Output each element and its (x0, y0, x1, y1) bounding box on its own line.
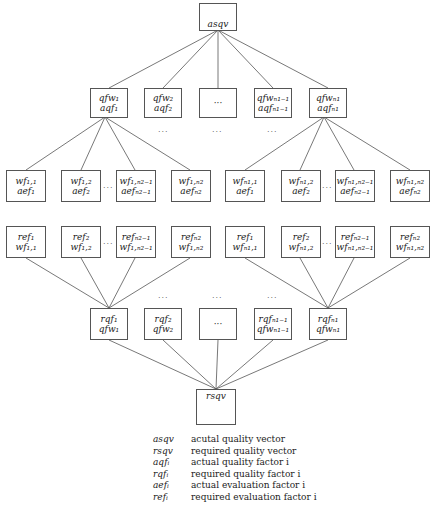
node-line: aef₂ (72, 186, 90, 196)
legend-description: required evaluation factor i (191, 492, 317, 504)
node-line: rqf₁ (100, 314, 117, 324)
node-label: rsqv (206, 391, 226, 401)
node-line: wf₁,ₙ₂ (179, 242, 204, 252)
node-line: wfₙ₁,ₙ₂ (396, 176, 424, 186)
node-line: wfₙ₁,₂ (289, 176, 314, 186)
node-actual-evaluation: wfₙ₁,ₙ₂ aefₙ₂ (390, 170, 430, 202)
node-line: aefₙ₂ (180, 186, 201, 196)
node-line: rqfₙ₁₋₁ (258, 314, 287, 324)
ellipsis: ··· (267, 127, 278, 136)
node-required-factor: rqf₁ qfw₁ (90, 308, 128, 340)
ellipsis: ··· (158, 293, 169, 302)
ellipsis: ··· (158, 127, 169, 136)
legend-item: rqfᵢ required quality factor i (153, 469, 317, 481)
node-actual-factor: qfw₁ aqf₁ (90, 88, 128, 118)
node-required-evaluation: refₙ₂₋₁ wfₙ₁,ₙ₂₋₁ (335, 226, 375, 258)
node-line: refₙ₂₋₁ (122, 232, 151, 242)
ellipsis: ··· (103, 239, 114, 248)
node-line: wf₁,ₙ₂ (179, 176, 204, 186)
node-actual-factor: qfw₂ aqf₂ (144, 88, 182, 118)
node-line: qfw₂ (153, 324, 173, 334)
node-line: wfₙ₁,₁ (233, 242, 258, 252)
node-line: qfw₁ (99, 324, 119, 334)
node-required-evaluation: ref₂ wf₁,₂ (61, 226, 101, 258)
node-line: qfwₙ₁ (316, 324, 340, 334)
node-required-evaluation: ref₁ wfₙ₁,₁ (225, 226, 265, 258)
node-actual-factor: qfwₙ₁₋₁ aqfₙ₁₋₁ (254, 88, 292, 118)
legend-description: required quality vector (191, 446, 296, 458)
node-line: wf₁,₂ (70, 176, 91, 186)
legend-description: actual quality factor i (191, 457, 289, 469)
ellipsis: ··· (267, 293, 278, 302)
node-line: aqf₂ (154, 103, 172, 113)
legend-item: asqv acutal quality vector (153, 434, 317, 446)
legend-item: refᵢ required evaluation factor i (153, 492, 317, 504)
ellipsis: ··· (322, 239, 333, 248)
node-line: qfwₙ₁₋₁ (257, 324, 289, 334)
node-actual-evaluation: wf₁,ₙ₂₋₁ aefₙ₂₋₁ (116, 170, 156, 202)
node-required-factor: rqfₙ₁₋₁ qfwₙ₁₋₁ (254, 308, 292, 340)
node-line: aqf₁ (100, 103, 118, 113)
legend-symbol: refᵢ (153, 492, 191, 504)
node-line: wfₙ₁,ₙ₂₋₁ (337, 242, 374, 252)
node-line: ··· (214, 98, 223, 108)
node-actual-evaluation: wf₁,₁ aef₁ (6, 170, 46, 202)
node-line: aefₙ₂ (399, 186, 420, 196)
node-line: qfwₙ₁₋₁ (257, 93, 289, 103)
node-line: qfwₙ₁ (316, 93, 340, 103)
node-line: wf₁,₁ (15, 176, 36, 186)
ellipsis: ··· (322, 183, 333, 192)
legend-symbol: asqv (153, 434, 191, 446)
legend-description: required quality factor i (191, 469, 300, 481)
node-line: ··· (214, 319, 223, 329)
node-actual-factor: qfwₙ₁ aqfₙ₁ (309, 88, 347, 118)
node-line: qfw₁ (99, 93, 119, 103)
node-line: wf₁,ₙ₂₋₁ (119, 176, 152, 186)
node-line: aef₂ (292, 186, 310, 196)
node-required-evaluation: ref₁ wf₁,₁ (6, 226, 46, 258)
node-actual-evaluation: wfₙ₁,₂ aef₂ (281, 170, 321, 202)
node-required-evaluation: refₙ₂ wfₙ₁,ₙ₂ (390, 226, 430, 258)
node-line: rqf₂ (154, 314, 171, 324)
node-line: aef₁ (236, 186, 254, 196)
node-line: refₙ₂ (400, 232, 420, 242)
node-line: refₙ₂₋₁ (341, 232, 370, 242)
node-line: aqfₙ₁ (317, 103, 339, 113)
node-required-evaluation: refₙ₂ wf₁,ₙ₂ (171, 226, 211, 258)
node-actual-evaluation: wfₙ₁,₁ aef₁ (225, 170, 265, 202)
ellipsis: ··· (212, 293, 223, 302)
node-line: ref₁ (18, 232, 35, 242)
node-line: aefₙ₂₋₁ (121, 186, 151, 196)
node-line: wfₙ₁,₂ (289, 242, 314, 252)
node-line: aefₙ₂₋₁ (340, 186, 370, 196)
node-line: wfₙ₁,ₙ₂₋₁ (337, 176, 374, 186)
node-required-factor: rqfₙ₁ qfwₙ₁ (309, 308, 347, 340)
legend-symbol: rqfᵢ (153, 469, 191, 481)
node-line: wfₙ₁,ₙ₂ (396, 242, 424, 252)
node-line: ref₁ (237, 232, 254, 242)
node-line: rqfₙ₁ (318, 314, 339, 324)
node-label: asqv (208, 19, 229, 29)
node-required-evaluation: refₙ₂₋₁ wf₁,ₙ₂₋₁ (116, 226, 156, 258)
node-line: refₙ₂ (181, 232, 201, 242)
node-required-factor-ellipsis: ··· (199, 308, 237, 340)
legend-symbol: aqfᵢ (153, 457, 191, 469)
node-required-factor: rqf₂ qfw₂ (144, 308, 182, 340)
node-line: aqfₙ₁₋₁ (258, 103, 288, 113)
node-line: wfₙ₁,₁ (233, 176, 258, 186)
node-rsqv: rsqv (196, 389, 236, 425)
node-line: ref₂ (73, 232, 90, 242)
node-line: wf₁,₂ (70, 242, 91, 252)
legend-description: acutal quality vector (191, 434, 285, 446)
node-line: wf₁,ₙ₂₋₁ (119, 242, 152, 252)
node-line: qfw₂ (153, 93, 173, 103)
node-line: ref₂ (293, 232, 310, 242)
ellipsis: ··· (103, 183, 114, 192)
node-actual-evaluation: wf₁,ₙ₂ aefₙ₂ (171, 170, 211, 202)
legend: asqv acutal quality vector rsqv required… (153, 434, 317, 504)
node-actual-factor-ellipsis: ··· (199, 88, 237, 118)
legend-item: aefᵢ actual evaluation factor i (153, 480, 317, 492)
legend-item: aqfᵢ actual quality factor i (153, 457, 317, 469)
legend-symbol: aefᵢ (153, 480, 191, 492)
node-line: aef₁ (17, 186, 35, 196)
